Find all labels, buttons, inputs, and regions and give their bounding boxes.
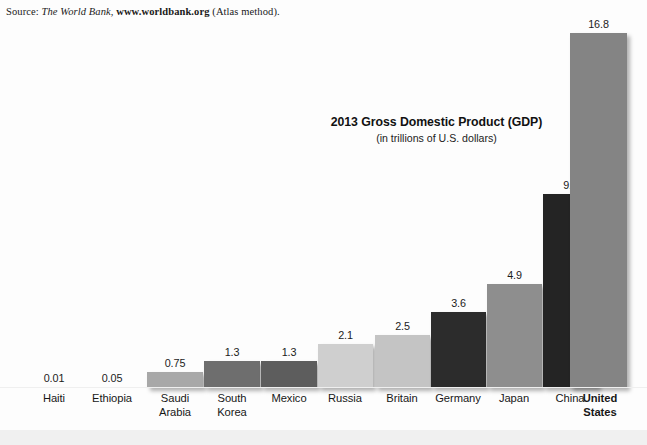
bar-group: 2.5 — [375, 1, 430, 388]
bar-value-label: 0.01 — [44, 372, 65, 384]
bar — [261, 361, 317, 388]
bar — [375, 335, 430, 388]
axis-label-line: Korea — [187, 406, 277, 420]
bar-value-label: 4.9 — [507, 269, 522, 281]
bar-group: 3.6 — [431, 1, 486, 388]
bar-group: 0.05 — [86, 1, 138, 388]
bar — [487, 284, 542, 388]
gdp-bar-chart-figure: Source: The World Bank, www.worldbank.or… — [0, 0, 647, 445]
floor-band — [0, 430, 647, 445]
bar-value-label: 2.5 — [395, 320, 410, 332]
bar-value-label: 3.6 — [451, 297, 466, 309]
bar-value-label: 16.8 — [588, 18, 609, 30]
plot-area: 0.010.050.751.31.32.12.53.64.99.216.8 — [0, 0, 647, 388]
category-axis: HaitiEthiopiaSaudiArabiaSouthKoreaMexico… — [0, 389, 647, 433]
bar-group: 1.3 — [261, 1, 317, 388]
axis-label-line: United — [555, 392, 645, 406]
bar-value-label: 0.05 — [102, 372, 123, 384]
bar-group: 4.9 — [487, 1, 542, 388]
bar — [318, 344, 373, 388]
bar-group: 0.01 — [28, 1, 80, 388]
axis-label-united-states: UnitedStates — [555, 392, 645, 419]
bar-value-label: 1.3 — [282, 346, 297, 358]
bar-group: 16.8 — [570, 1, 627, 388]
baseline-rule — [0, 387, 647, 388]
bar — [431, 312, 486, 388]
bar-group: 1.3 — [204, 1, 260, 388]
bar — [570, 33, 627, 388]
bar-group: 2.1 — [318, 1, 373, 388]
axis-label-line: States — [555, 406, 645, 420]
bar-value-label: 0.75 — [165, 357, 186, 369]
bar — [204, 361, 260, 388]
bar-value-label: 2.1 — [338, 329, 353, 341]
bar — [147, 372, 203, 388]
bar-group: 0.75 — [147, 1, 203, 388]
bar-value-label: 1.3 — [225, 346, 240, 358]
